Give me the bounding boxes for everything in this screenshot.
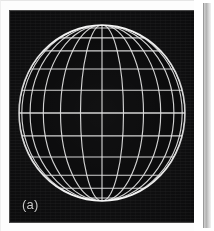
wireframe-sphere-graphic (10, 11, 194, 222)
figure-root: (a) (0, 0, 214, 231)
neighbor-panel-edge (204, 3, 211, 228)
panel-label-a: (a) (22, 198, 39, 211)
gutter-top-highlight (194, 0, 214, 3)
figure-panel-a: (a) (10, 11, 194, 222)
